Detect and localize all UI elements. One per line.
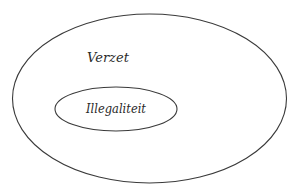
diagram-canvas: Verzet Illegaliteit	[0, 0, 297, 192]
outer-set-ellipse	[13, 14, 287, 183]
venn-diagram: Verzet Illegaliteit	[0, 0, 297, 192]
inner-set-label: Illegaliteit	[85, 101, 147, 116]
outer-set-label: Verzet	[87, 50, 130, 65]
